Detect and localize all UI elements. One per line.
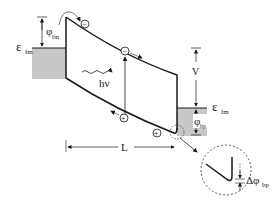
svg-text:−: − — [123, 47, 128, 56]
svg-text:bn: bn — [52, 33, 60, 41]
svg-text:bp: bp — [200, 123, 206, 129]
svg-text:V: V — [192, 66, 200, 77]
svg-text:−: − — [83, 20, 88, 29]
svg-text:+: + — [121, 114, 126, 123]
svg-text:Δφ: Δφ — [246, 174, 259, 186]
svg-text:fm: fm — [221, 108, 229, 116]
svg-text:ε: ε — [16, 39, 22, 54]
band-diagram: − − hν + + Δφ bp φ bn ε fm V ε fm φ bp — [0, 0, 275, 206]
svg-text:+: + — [154, 129, 159, 138]
zoom-detail-circle — [201, 145, 251, 195]
svg-text:fm: fm — [25, 48, 33, 56]
photon-wave — [82, 71, 112, 74]
svg-text:bp: bp — [262, 181, 270, 189]
electron-injection-arrow — [59, 12, 80, 25]
valence-band — [66, 78, 177, 133]
svg-text:ε: ε — [212, 99, 218, 114]
svg-text:L: L — [121, 141, 128, 153]
svg-text:hν: hν — [99, 77, 110, 89]
left-metal-region — [32, 48, 66, 79]
